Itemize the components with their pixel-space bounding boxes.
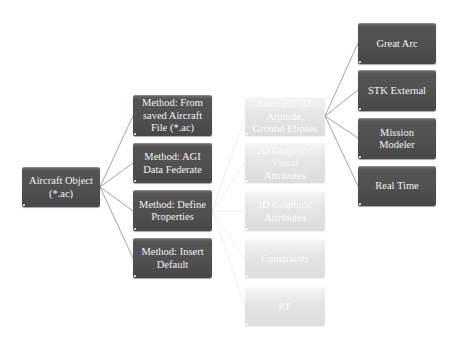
corner-dot — [23, 204, 25, 206]
propagator-node-great-arc[interactable]: Great Arc — [358, 23, 436, 64]
corner-dot — [359, 108, 361, 110]
connector-root-method-3 — [100, 187, 133, 211]
root-node-aircraft-object[interactable]: Aircraft Object (*.ac) — [22, 167, 100, 207]
method-node-from-saved-file[interactable]: Method: From saved Aircraft File (*.ac) — [133, 95, 212, 136]
connector-basic-prop-2 — [325, 90, 358, 116]
property-node-label: 3D Graphics: Attributes — [257, 199, 313, 224]
propagator-node-label: Mission Modeler — [379, 127, 415, 152]
propagator-node-label: STK External — [368, 85, 426, 98]
method-node-label: Method: AGI Data Federate — [143, 151, 202, 176]
corner-dot — [359, 61, 361, 63]
method-node-define-properties[interactable]: Method: Define Properties — [133, 190, 212, 231]
property-node-basic-2d-3d[interactable]: Basic 2D/3D: Attitude, Ground Elipses — [245, 97, 325, 136]
root-connectors — [100, 116, 133, 258]
property-node-label: RF — [279, 301, 292, 314]
corner-dot — [246, 228, 248, 230]
property-node-rf[interactable]: RF — [245, 287, 325, 326]
property-node-2d-graphics[interactable]: 2D Graphics: Visual Attributes — [245, 143, 325, 183]
connector-define-prop-4 — [212, 211, 245, 259]
connector-root-method-2 — [100, 163, 133, 187]
propagator-node-stk-external[interactable]: STK External — [358, 70, 436, 111]
aircraft-object-hierarchy-diagram: Aircraft Object (*.ac) Method: From save… — [0, 0, 458, 339]
corner-dot — [134, 275, 136, 277]
property-node-3d-graphics[interactable]: 3D Graphics: Attributes — [245, 191, 325, 231]
connector-root-method-4 — [100, 187, 133, 258]
method-node-label: Method: Insert Default — [141, 246, 203, 271]
corner-dot — [134, 133, 136, 135]
method-node-agi-data-federate[interactable]: Method: AGI Data Federate — [133, 143, 212, 183]
connector-basic-prop-1 — [325, 43, 358, 116]
connector-basic-prop-4 — [325, 116, 358, 186]
corner-dot — [134, 180, 136, 182]
propagator-node-label: Great Arc — [376, 38, 417, 51]
corner-dot — [246, 180, 248, 182]
connector-define-prop-1 — [212, 117, 245, 211]
connector-root-method-1 — [100, 116, 133, 187]
property-node-label: Constraints — [261, 253, 309, 266]
corner-dot — [246, 275, 248, 277]
property-node-label: 2D Graphics: Visual Attributes — [257, 145, 313, 183]
define-properties-connectors — [212, 117, 245, 306]
basic-connectors — [325, 43, 358, 186]
propagator-node-real-time[interactable]: Real Time — [358, 166, 436, 206]
corner-dot — [246, 133, 248, 135]
propagator-node-mission-modeler[interactable]: Mission Modeler — [358, 118, 436, 159]
propagator-node-label: Real Time — [375, 180, 418, 193]
property-node-label: Basic 2D/3D: Attitude, Ground Elipses — [252, 98, 317, 136]
corner-dot — [134, 228, 136, 230]
connector-define-prop-2 — [212, 163, 245, 211]
corner-dot — [359, 203, 361, 205]
method-node-label: Method: Define Properties — [139, 199, 206, 224]
property-node-constraints[interactable]: Constraints — [245, 239, 325, 278]
corner-dot — [246, 323, 248, 325]
method-node-label: Method: From saved Aircraft File (*.ac) — [142, 97, 203, 135]
corner-dot — [359, 156, 361, 158]
root-node-label: Aircraft Object (*.ac) — [29, 175, 93, 200]
connector-define-prop-5 — [212, 211, 245, 306]
method-node-insert-default[interactable]: Method: Insert Default — [133, 238, 212, 278]
